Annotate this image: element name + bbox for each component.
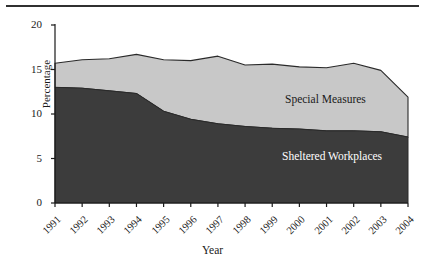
y-axis-title: Percentage	[40, 34, 52, 134]
y-axis-tick-label: 5	[12, 152, 42, 164]
series-annotation-sheltered-workplaces: Sheltered Workplaces	[282, 150, 382, 162]
x-axis-title-text: Year	[202, 244, 223, 256]
chart-figure: Percentage 05101520 19911992199319941995…	[0, 0, 425, 267]
plot-areas	[55, 54, 408, 203]
x-axis-title: Year	[0, 244, 425, 256]
y-axis-tick-label: 0	[12, 196, 42, 208]
y-axis-tick-label: 20	[12, 18, 42, 30]
y-axis-tick-label: 15	[12, 63, 42, 75]
series-annotation-special-measures: Special Measures	[285, 93, 366, 105]
y-axis-tick-label: 10	[12, 107, 42, 119]
